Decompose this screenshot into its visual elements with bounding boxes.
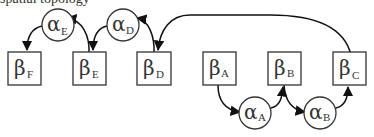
node-beta-F: β F	[8, 52, 41, 85]
topology-diagram: β F β E β D β A β B β C α E α D α A	[0, 0, 374, 137]
svg-text:β: β	[14, 56, 26, 80]
edge-betaA-alphaA	[218, 85, 240, 112]
node-beta-B: β B	[268, 52, 301, 85]
svg-text:β: β	[143, 56, 155, 80]
node-alpha-A: α A	[239, 97, 271, 129]
svg-text:β: β	[274, 56, 286, 80]
svg-text:α: α	[244, 100, 258, 124]
edge-betaC-betaD	[158, 15, 351, 55]
svg-text:β: β	[209, 56, 221, 80]
svg-text:β: β	[79, 56, 91, 80]
edge-alphaE-betaF	[27, 26, 42, 50]
edge-alphaD-betaE	[93, 26, 107, 50]
svg-text:β: β	[339, 56, 351, 80]
node-alpha-D: α D	[107, 9, 139, 41]
node-alpha-E: α E	[42, 9, 74, 41]
node-beta-C: β C	[333, 52, 366, 85]
edge-alphaB-betaC	[336, 87, 348, 108]
node-alpha-B: α B	[304, 97, 336, 129]
svg-text:F: F	[27, 68, 33, 80]
edge-alphaA-betaB	[271, 87, 283, 108]
node-beta-A: β A	[203, 52, 236, 85]
svg-text:E: E	[92, 68, 99, 80]
svg-text:C: C	[352, 69, 359, 81]
node-beta-D: β D	[137, 52, 171, 85]
svg-text:D: D	[126, 24, 134, 36]
svg-text:B: B	[287, 67, 294, 79]
svg-text:D: D	[156, 68, 164, 80]
svg-text:E: E	[61, 25, 68, 37]
edge-betaB-alphaB	[284, 85, 305, 112]
svg-text:α: α	[309, 100, 323, 124]
svg-text:B: B	[323, 111, 330, 123]
svg-text:A: A	[258, 111, 266, 123]
node-beta-E: β E	[73, 52, 106, 85]
svg-text:A: A	[221, 67, 229, 79]
svg-text:α: α	[112, 12, 126, 36]
svg-text:α: α	[47, 12, 61, 36]
